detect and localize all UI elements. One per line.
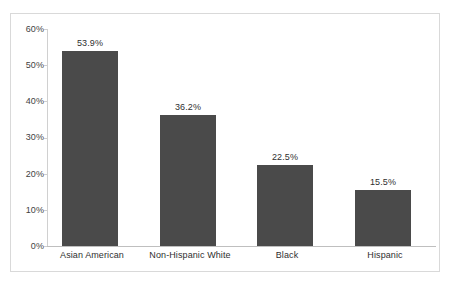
bar[interactable] <box>160 115 216 246</box>
bar[interactable] <box>355 190 411 246</box>
bar-value-label: 15.5% <box>370 177 396 187</box>
bar-value-label: 36.2% <box>175 102 201 112</box>
category-label: Hispanic <box>315 250 451 261</box>
bar-chart: 60% 50% 40% 30% 20% 10% 0% 53.9% 36.2% 2… <box>0 0 451 283</box>
bar[interactable] <box>62 51 118 246</box>
y-tick-label: 10% <box>4 206 44 215</box>
y-tick-label: 50% <box>4 61 44 70</box>
bar-value-label: 53.9% <box>77 38 103 48</box>
plot-area: 53.9% 36.2% 22.5% 15.5% <box>47 29 436 246</box>
value-axis-labels: 60% 50% 40% 30% 20% 10% 0% <box>0 0 44 283</box>
bar-value-label: 22.5% <box>272 152 298 162</box>
y-tick-mark <box>44 246 47 247</box>
y-tick-label: 40% <box>4 97 44 106</box>
y-tick-label: 20% <box>4 170 44 179</box>
bar-group: 53.9% <box>62 29 118 246</box>
bar-group: 15.5% <box>355 29 411 246</box>
bar[interactable] <box>257 165 313 246</box>
category-axis-line <box>47 246 436 247</box>
bar-group: 22.5% <box>257 29 313 246</box>
bar-group: 36.2% <box>160 29 216 246</box>
y-tick-label: 60% <box>4 25 44 34</box>
y-tick-label: 30% <box>4 133 44 142</box>
